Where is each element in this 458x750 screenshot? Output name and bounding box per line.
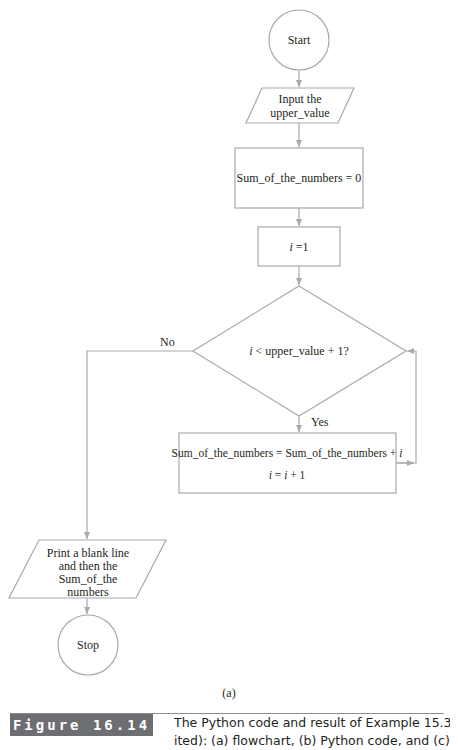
figure-caption-line2: ited): (a) flowchart, (b) Python code, a… (174, 732, 450, 750)
input-node: Input the upper_value (246, 88, 354, 123)
yes-label: Yes (311, 415, 329, 429)
stop-label: Stop (77, 638, 99, 652)
init-i-node: i =1 (258, 227, 340, 266)
output-line4: numbers (67, 585, 109, 599)
body-line2: i = i + 1 (269, 469, 306, 481)
input-label-line2: upper_value (270, 106, 329, 120)
no-label: No (160, 335, 175, 349)
stop-node: Stop (58, 615, 118, 675)
start-label: Start (288, 33, 311, 47)
body-line1: Sum_of_the_numbers = Sum_of_the_numbers … (172, 447, 403, 459)
decision-node: i < upper_value + 1? (193, 286, 406, 416)
init-sum-label: Sum_of_the_numbers = 0 (237, 171, 362, 185)
output-line2: and then the (59, 559, 118, 573)
start-node: Start (269, 10, 329, 70)
figure-sub-label: (a) (0, 686, 458, 701)
init-sum-node: Sum_of_the_numbers = 0 (235, 148, 363, 208)
output-line3: Sum_of_the (59, 572, 118, 586)
init-i-label: i =1 (289, 240, 308, 254)
output-line1: Print a blank line (47, 546, 129, 560)
output-node: Print a blank line and then the Sum_of_t… (9, 540, 166, 599)
figure-number-label: Figure 16.14 (10, 714, 153, 736)
loop-body-node: Sum_of_the_numbers = Sum_of_the_numbers … (172, 433, 403, 493)
edge-no (87, 351, 193, 539)
decision-label: i < upper_value + 1? (249, 344, 349, 358)
figure-caption-line1: The Python code and result of Example 15… (174, 714, 450, 732)
input-label-line1: Input the (279, 92, 322, 106)
figure-caption: The Python code and result of Example 15… (174, 714, 450, 750)
